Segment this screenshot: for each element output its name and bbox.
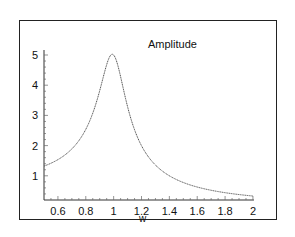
x-tick-label: 2: [250, 205, 256, 217]
axes: [44, 50, 254, 200]
x-tick-label: 1.8: [217, 205, 232, 217]
x-tick-label: 1.4: [162, 205, 177, 217]
y-tick-label: 5: [32, 49, 38, 61]
y-tick-label: 2: [32, 140, 38, 152]
amplitude-curve: [44, 54, 253, 196]
x-tick-label: 1.6: [190, 205, 205, 217]
x-axis-label: w: [138, 213, 147, 224]
x-tick-label: 0.6: [50, 205, 65, 217]
chart-title: Amplitude: [148, 38, 197, 50]
y-tick-label: 4: [32, 79, 38, 91]
y-tick-label: 1: [32, 170, 38, 182]
y-tick-label: 3: [32, 109, 38, 121]
x-tick-label: 0.8: [78, 205, 93, 217]
amplitude-chart: 123450.60.811.21.41.61.82 Amplitude w: [0, 0, 295, 237]
x-tick-label: 1: [111, 205, 117, 217]
